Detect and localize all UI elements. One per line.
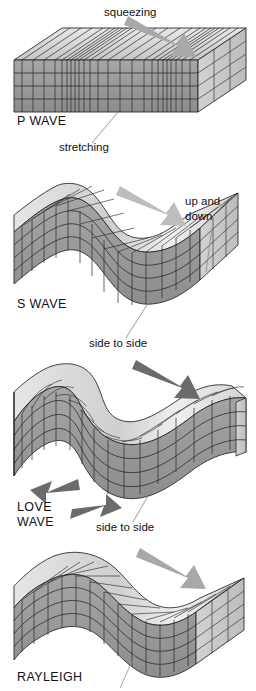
rayleigh-wave-propagation-arrow	[136, 548, 206, 589]
love-side-to-side-label: side to side	[96, 521, 154, 533]
love-wave-propagation-arrow	[132, 360, 200, 399]
rayleigh-wave-block	[14, 552, 244, 677]
s-wave-label: S WAVE	[17, 298, 67, 311]
up-and-down-label-line2: down	[185, 210, 213, 222]
love-wave-shear-arrow-right	[70, 494, 122, 519]
squeezing-label: squeezing	[104, 6, 156, 18]
p-wave-label: P WAVE	[17, 115, 66, 128]
p-wave-block	[14, 28, 246, 112]
rayleigh-wave-label: RAYLEIGH	[17, 671, 83, 684]
love-wave-label-line1: LOVE	[17, 501, 52, 514]
stretching-leader-line	[92, 112, 118, 143]
up-and-down-label-line1: up and	[185, 195, 220, 207]
love-side-to-side-leader-line	[133, 496, 148, 522]
love-wave-block	[14, 364, 246, 499]
s-wave-propagation-arrow	[116, 186, 186, 226]
stretching-label: stretching	[59, 141, 109, 153]
love-wave-label-line2: WAVE	[17, 516, 54, 529]
s-side-to-side-label: side to side	[89, 337, 147, 349]
seismic-wave-figure: P WAVE squeezing stretching S WAVE up an…	[0, 0, 256, 691]
s-side-to-side-leader-line	[126, 300, 150, 338]
